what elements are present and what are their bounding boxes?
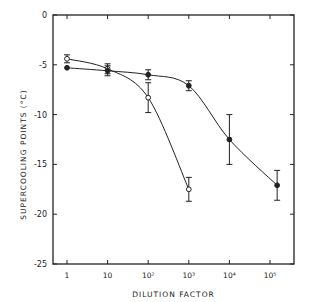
filled-circle-marker [186,83,191,88]
plot-frame [53,15,294,264]
open-circle-marker [186,187,191,192]
open-circle-marker [146,95,151,100]
fit-curve [67,59,189,189]
fitted-curves [67,59,277,189]
filled-circle-marker [65,65,70,70]
y-tick-label: -20 [34,210,47,219]
supercooling-chart: 0-5-10-15-20-2511010²10³10⁴10⁵ DILUTION … [0,0,309,302]
filled-circle-marker [105,68,110,73]
y-axis-title: SUPERCOOLING POINTS (°C) [19,89,28,219]
y-tick-label: -25 [34,260,47,269]
x-tick-label: 10³ [183,271,196,280]
x-tick-label: 10² [142,271,155,280]
y-tick-label: -10 [34,111,47,120]
y-tick-label: 0 [42,11,47,20]
y-tick-label: -5 [39,61,47,70]
x-tick-label: 10⁵ [264,271,277,280]
fit-curve [67,68,277,186]
filled-circle-marker [275,183,280,188]
filled-circle-marker [146,72,151,77]
x-tick-label: 1 [65,271,70,280]
x-tick-label: 10⁴ [223,271,236,280]
open-circle-marker [65,56,70,61]
x-tick-label: 10 [103,271,113,280]
y-tick-label: -15 [34,160,47,169]
axes: 0-5-10-15-20-2511010²10³10⁴10⁵ [34,11,294,280]
axis-labels: DILUTION FACTORSUPERCOOLING POINTS (°C) [19,89,215,299]
filled-circle-marker [227,137,232,142]
data-points [64,55,280,201]
x-axis-title: DILUTION FACTOR [132,290,215,299]
